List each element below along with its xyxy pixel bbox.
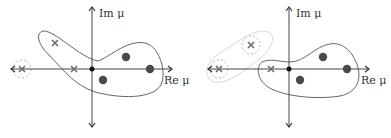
im-label: Im μ xyxy=(296,7,321,20)
pole-dot xyxy=(146,65,154,73)
right-panel: Im μ Re μ xyxy=(207,7,387,127)
left-panel: Im μ Re μ xyxy=(11,7,189,127)
diagram-canvas: Im μ Re μ Im μ Re μ xyxy=(0,0,391,138)
pole-dot xyxy=(319,53,327,61)
re-label: Re μ xyxy=(164,74,189,87)
re-label: Re μ xyxy=(361,74,386,87)
cross-icon xyxy=(52,40,58,46)
cross-icon-group xyxy=(216,42,274,72)
origin-dot xyxy=(90,67,95,72)
origin-dot xyxy=(287,67,292,72)
pole-dot xyxy=(343,65,351,73)
pole-dot xyxy=(99,76,107,84)
cross-icon xyxy=(248,42,254,48)
faded-contour xyxy=(207,31,273,82)
pole-dot xyxy=(122,53,130,61)
pole-dot xyxy=(296,76,304,84)
im-label: Im μ xyxy=(99,7,124,20)
